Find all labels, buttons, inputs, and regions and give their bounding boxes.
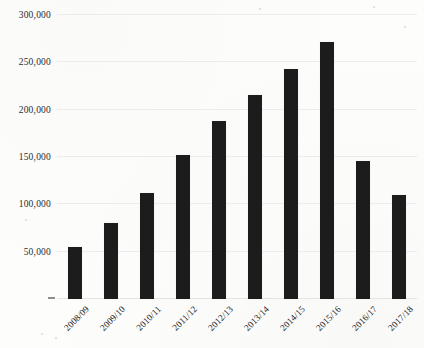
- y-axis-tick-label: 300,000: [19, 10, 51, 20]
- y-axis-labels: 50,000100,000150,000200,000250,000300,00…: [0, 15, 51, 299]
- axis-origin-tick: [48, 297, 55, 299]
- scan-speck: [41, 333, 43, 335]
- bar-2012-13: [212, 121, 226, 299]
- bar-2014-15: [284, 69, 298, 299]
- scan-speck: [373, 6, 375, 8]
- x-axis-tick-label: 2013/14: [242, 304, 271, 333]
- x-axis-tick-label: 2015/16: [314, 304, 343, 333]
- y-axis-tick-label: 100,000: [19, 199, 51, 209]
- bar-2010-11: [140, 193, 154, 299]
- bar-2016-17: [356, 161, 370, 299]
- x-axis-tick-label: 2016/17: [350, 304, 379, 333]
- bar-2011-12: [176, 155, 190, 299]
- bar-series: [57, 15, 417, 299]
- chart-canvas: 50,000100,000150,000200,000250,000300,00…: [0, 0, 424, 348]
- bar-2015-16: [320, 42, 334, 299]
- scan-speck: [259, 8, 261, 10]
- bar-2008-09: [68, 247, 82, 299]
- bar-2017-18: [392, 195, 406, 299]
- x-axis-tick-label: 2012/13: [206, 304, 235, 333]
- x-axis-tick-label: 2009/10: [98, 304, 127, 333]
- x-axis-labels: 2008/092009/102010/112011/122012/132013/…: [57, 300, 417, 348]
- bar-2009-10: [104, 223, 118, 299]
- x-axis-tick-label: 2008/09: [62, 304, 91, 333]
- y-axis-tick-label: 200,000: [19, 105, 51, 115]
- y-axis-tick-label: 250,000: [19, 57, 51, 67]
- x-axis-tick-label: 2017/18: [386, 304, 415, 333]
- y-axis-tick-label: 150,000: [19, 152, 51, 162]
- y-axis-tick-label: 50,000: [24, 247, 51, 257]
- x-axis-tick-label: 2010/11: [134, 304, 163, 333]
- bar-2013-14: [248, 95, 262, 299]
- plot-area: [57, 15, 417, 299]
- x-axis-tick-label: 2011/12: [170, 304, 199, 333]
- x-axis-tick-label: 2014/15: [278, 304, 307, 333]
